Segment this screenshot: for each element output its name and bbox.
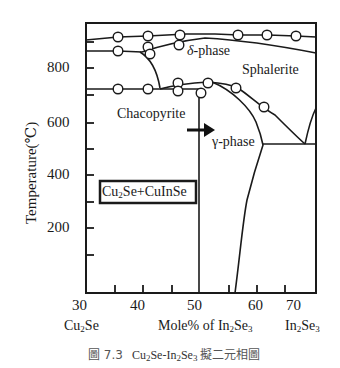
x-left-endpoint-label: Cu2Se bbox=[64, 318, 99, 334]
chalcopyrite-gamma-boundary bbox=[212, 82, 263, 293]
y-tick-400: 400 bbox=[47, 166, 70, 183]
arrow-right-icon bbox=[187, 123, 215, 137]
right-boundary-curve bbox=[305, 108, 316, 144]
chacopyrite-label: Chacopyrite bbox=[117, 106, 185, 122]
delta-phase-label: δδ-phase-phase bbox=[187, 43, 230, 59]
y-axis-label: Temperature(℃) bbox=[22, 122, 40, 224]
figure-caption: 圖 7.3 Cu2Se-In2Se3 擬二元相圖 bbox=[88, 345, 260, 363]
y-tick-200: 200 bbox=[47, 219, 70, 236]
x-tick-60: 60 bbox=[248, 297, 263, 314]
annotation-box: Cu2Se+CuInSe bbox=[102, 183, 187, 200]
gamma-phase-label: γ-phase bbox=[212, 134, 255, 150]
x-right-endpoint-label: In2Se3 bbox=[285, 318, 320, 334]
sphalerite-label: Sphalerite bbox=[242, 62, 299, 78]
x-axis-ticks bbox=[115, 285, 285, 293]
y-tick-800: 800 bbox=[47, 59, 70, 76]
y-axis-ticks bbox=[86, 42, 94, 255]
x-tick-30: 30 bbox=[72, 297, 87, 314]
x-axis-label: Mole% of In2Se3 bbox=[158, 318, 253, 334]
x-tick-50: 50 bbox=[187, 297, 202, 314]
y-tick-600: 600 bbox=[47, 114, 70, 131]
x-tick-40: 40 bbox=[130, 297, 145, 314]
x-tick-70: 70 bbox=[286, 297, 301, 314]
